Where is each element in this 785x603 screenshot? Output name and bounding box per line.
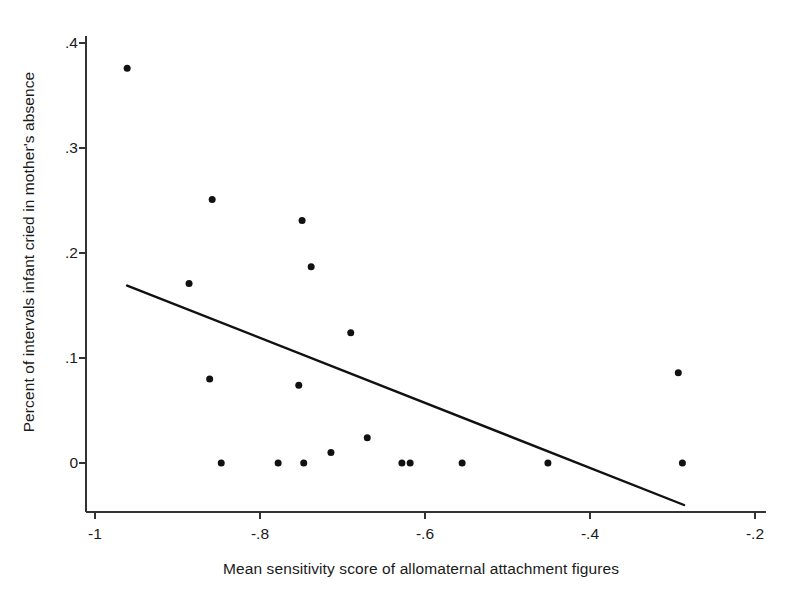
x-tick-label-0: -1 bbox=[65, 526, 125, 542]
scatter-plot-figure: 0.1.2.3.4 -1-.8-.6-.4-.2 Percent of inte… bbox=[0, 0, 785, 603]
x-tick-label-1: -.8 bbox=[230, 526, 290, 542]
x-axis-tick-labels: -1-.8-.6-.4-.2 bbox=[0, 0, 785, 603]
x-tick-label-2: -.6 bbox=[395, 526, 455, 542]
x-axis-title: Mean sensitivity score of allomaternal a… bbox=[86, 560, 756, 578]
x-tick-label-3: -.4 bbox=[560, 526, 620, 542]
y-axis-title: Percent of intervals infant cried in mot… bbox=[20, 17, 38, 487]
x-tick-label-4: -.2 bbox=[725, 526, 785, 542]
